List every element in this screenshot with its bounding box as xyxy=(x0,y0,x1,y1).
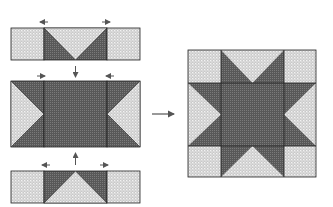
quilt-assembly-diagram xyxy=(0,0,333,207)
finished-star-block xyxy=(188,50,316,177)
corner-square xyxy=(107,28,140,60)
corner-square xyxy=(11,28,44,60)
center-square xyxy=(221,83,284,146)
corner-square xyxy=(188,146,221,177)
bottom-row-unit xyxy=(11,165,140,203)
corner-square xyxy=(107,171,140,203)
corner-square xyxy=(284,146,316,177)
middle-row-unit xyxy=(11,76,140,147)
corner-square xyxy=(188,50,221,83)
corner-square xyxy=(11,171,44,203)
top-row-unit xyxy=(11,22,140,60)
corner-square xyxy=(284,50,316,83)
center-square xyxy=(44,81,107,147)
